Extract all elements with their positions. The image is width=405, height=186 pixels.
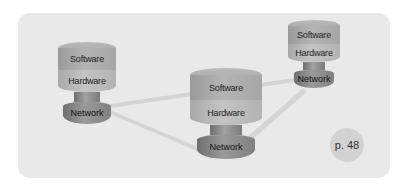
hardware-label: Hardware — [295, 48, 332, 58]
network-label: Network — [209, 142, 242, 152]
network-label: Network — [70, 108, 103, 118]
software-layer: Software — [288, 26, 340, 44]
software-layer: Software — [58, 48, 116, 70]
node-left: Software Hardware Network — [58, 42, 116, 124]
hardware-layer: Hardware — [190, 100, 262, 125]
hardware-label: Hardware — [68, 76, 105, 86]
software-layer: Software — [190, 75, 262, 100]
network-label: Network — [297, 74, 330, 84]
page-badge: p. 48 — [330, 128, 364, 162]
software-label: Software — [209, 83, 243, 93]
page-number: p. 48 — [335, 139, 359, 151]
network-layer: Network — [294, 70, 334, 88]
hardware-layer: Hardware — [58, 70, 116, 92]
connector-neck — [74, 92, 100, 102]
connector-neck — [210, 125, 242, 135]
software-label: Software — [297, 30, 331, 40]
node-center: Software Hardware Network — [190, 68, 262, 159]
hardware-label: Hardware — [207, 108, 244, 118]
node-right: Software Hardware Network — [288, 20, 340, 88]
software-label: Software — [70, 54, 104, 64]
network-layer: Network — [197, 135, 255, 159]
network-layer: Network — [63, 102, 111, 124]
hardware-layer: Hardware — [288, 44, 340, 62]
connector-neck — [303, 62, 325, 70]
